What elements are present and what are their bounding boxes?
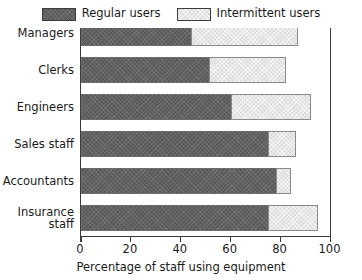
y-axis-label-line: Engineers <box>0 101 74 113</box>
bar-row <box>81 131 296 157</box>
legend-label-intermittent-users: Intermittent users <box>217 8 321 20</box>
y-axis-category-labels: ManagersClerksEngineersSales staffAccoun… <box>0 14 74 237</box>
bar-row <box>81 57 286 83</box>
bar-segment-regular-users <box>81 94 231 120</box>
bar-segment-regular-users <box>81 205 268 231</box>
x-axis-tick-label: 100 <box>319 243 341 256</box>
bar-segment-regular-users <box>81 57 209 83</box>
bar-segment-intermittent-users <box>209 57 285 83</box>
bar-segment-intermittent-users <box>268 131 295 157</box>
y-axis-label-engineers: Engineers <box>0 101 74 113</box>
x-axis-tick-label: 0 <box>76 243 83 256</box>
bar-segment-regular-users <box>81 131 268 157</box>
regular-users-swatch <box>42 8 76 21</box>
bar-segment-regular-users <box>81 168 276 194</box>
x-axis-tick-labels: 020406080100 <box>0 243 362 259</box>
chart-legend: Regular users Intermittent users <box>0 0 362 28</box>
y-axis-label-managers: Managers <box>0 27 74 39</box>
bar-row <box>81 205 318 231</box>
y-axis-label-clerks: Clerks <box>0 64 74 76</box>
bar-segment-intermittent-users <box>268 205 318 231</box>
y-axis-label-line: Managers <box>0 27 74 39</box>
x-axis-tick-label: 20 <box>123 243 138 256</box>
x-axis-title: Percentage of staff using equipment <box>0 260 362 274</box>
y-axis-label-sales-staff: Sales staff <box>0 138 74 150</box>
legend-item-regular-users: Regular users <box>42 8 161 21</box>
bar-row <box>81 168 291 194</box>
bar-segment-intermittent-users <box>231 94 311 120</box>
bars-area <box>80 14 331 237</box>
bar-segment-intermittent-users <box>276 168 291 194</box>
x-axis-tick-label: 80 <box>272 243 287 256</box>
bar-row <box>81 94 311 120</box>
y-axis-label-line: Sales staff <box>0 138 74 150</box>
y-axis-label-insurance-staff: Insurancestaff <box>0 206 74 230</box>
x-axis-tick-label: 60 <box>222 243 237 256</box>
x-axis-tick-label: 40 <box>172 243 187 256</box>
y-axis-label-line: staff <box>0 218 74 230</box>
stacked-bar-chart: ManagersClerksEngineersSales staffAccoun… <box>0 0 362 280</box>
legend-item-intermittent-users: Intermittent users <box>177 8 321 21</box>
intermittent-users-swatch <box>177 8 211 21</box>
legend-label-regular-users: Regular users <box>82 8 161 20</box>
y-axis-label-line: Accountants <box>0 175 74 187</box>
y-axis-label-accountants: Accountants <box>0 175 74 187</box>
y-axis-label-line: Clerks <box>0 64 74 76</box>
